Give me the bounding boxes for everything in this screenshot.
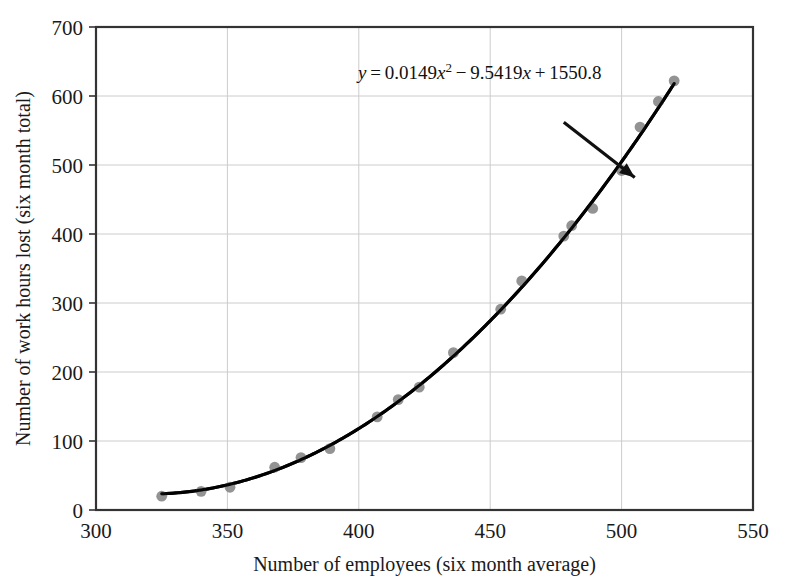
x-tick-label: 400 bbox=[343, 519, 375, 543]
y-tick-label: 500 bbox=[52, 154, 84, 178]
x-tick-label: 350 bbox=[212, 519, 244, 543]
y-tick-label: 200 bbox=[52, 361, 84, 385]
chart-background bbox=[0, 0, 794, 585]
y-tick-label: 700 bbox=[52, 16, 84, 40]
y-tick-label: 0 bbox=[73, 499, 84, 523]
chart-figure: 300350400450500550 010020030040050060070… bbox=[0, 0, 794, 585]
x-tick-label: 550 bbox=[737, 519, 769, 543]
equation-label: y = 0.0149x2 − 9.5419x + 1550.8 bbox=[356, 60, 602, 84]
x-tick-label: 300 bbox=[80, 519, 112, 543]
equation-annotation: y = 0.0149x2 − 9.5419x + 1550.8 bbox=[356, 60, 602, 84]
y-axis-title: Number of work hours lost (six month tot… bbox=[12, 91, 35, 446]
y-tick-label: 300 bbox=[52, 292, 84, 316]
y-tick-label: 100 bbox=[52, 430, 84, 454]
x-tick-label: 500 bbox=[606, 519, 638, 543]
x-axis-title: Number of employees (six month average) bbox=[253, 553, 596, 576]
x-tick-label: 450 bbox=[474, 519, 506, 543]
y-tick-label: 400 bbox=[52, 223, 84, 247]
y-tick-label: 600 bbox=[52, 85, 84, 109]
